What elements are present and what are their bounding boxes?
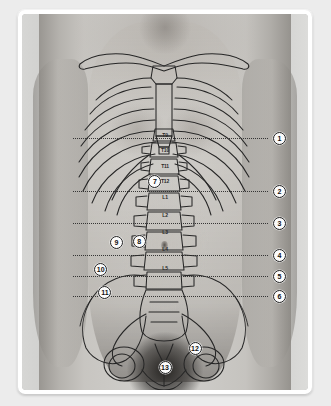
vertebra-label-t10: T10 xyxy=(161,147,169,153)
figure-root: 12345678910111213T9T10T11T12L1L2L3L4L5 xyxy=(0,0,331,406)
callout-marker-7[interactable]: 7 xyxy=(148,175,161,188)
annotation-layer: 12345678910111213T9T10T11T12L1L2L3L4L5 xyxy=(22,14,308,390)
vertebra-label-l2: L2 xyxy=(162,212,167,218)
reference-line-5 xyxy=(73,276,267,277)
vertebra-label-t11: T11 xyxy=(161,163,169,169)
vertebra-label-l1: L1 xyxy=(162,194,167,200)
callout-marker-8[interactable]: 8 xyxy=(133,235,146,248)
callout-marker-5[interactable]: 5 xyxy=(273,270,286,283)
callout-marker-2[interactable]: 2 xyxy=(273,185,286,198)
vertebra-label-l4: L4 xyxy=(162,246,167,252)
callout-marker-10[interactable]: 10 xyxy=(94,263,107,276)
reference-line-1 xyxy=(73,138,267,139)
callout-marker-9[interactable]: 9 xyxy=(110,236,123,249)
reference-line-3 xyxy=(73,223,267,224)
vertebra-label-l5: L5 xyxy=(162,265,167,271)
vertebra-label-t12: T12 xyxy=(161,178,169,184)
callout-marker-3[interactable]: 3 xyxy=(273,217,286,230)
callout-marker-6[interactable]: 6 xyxy=(273,290,286,303)
reference-line-2 xyxy=(73,191,267,192)
vertebra-label-l3: L3 xyxy=(162,229,167,235)
photo-frame: 12345678910111213T9T10T11T12L1L2L3L4L5 xyxy=(18,10,312,394)
callout-marker-13[interactable]: 13 xyxy=(159,361,172,374)
anatomy-photograph: 12345678910111213T9T10T11T12L1L2L3L4L5 xyxy=(22,14,308,390)
vertebra-label-t9: T9 xyxy=(162,132,167,138)
reference-line-4 xyxy=(73,255,267,256)
callout-marker-4[interactable]: 4 xyxy=(273,249,286,262)
callout-marker-1[interactable]: 1 xyxy=(273,132,286,145)
callout-marker-12[interactable]: 12 xyxy=(189,342,202,355)
